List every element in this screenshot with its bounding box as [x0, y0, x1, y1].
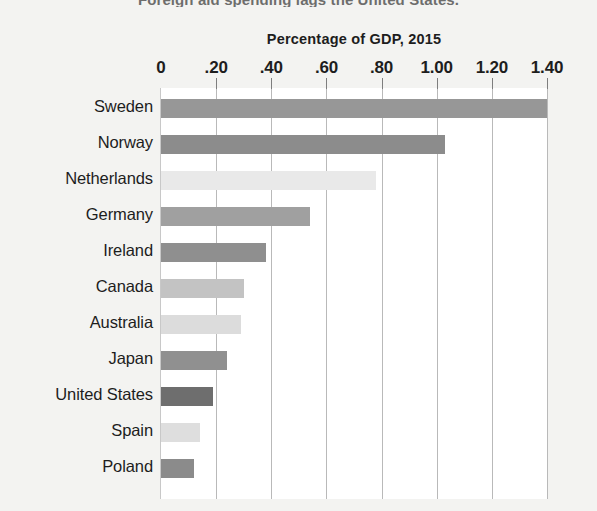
x-tick-label: .80	[370, 58, 393, 78]
x-tick-mark	[326, 78, 327, 89]
axis-title: Percentage of GDP, 2015	[161, 31, 547, 47]
x-tick-label: .60	[315, 58, 338, 78]
category-label: Norway	[0, 133, 153, 152]
figure-canvas: Foreign aid spending lags the United Sta…	[0, 0, 597, 511]
bar	[161, 99, 547, 118]
bar	[161, 171, 376, 190]
bar	[161, 351, 227, 370]
bar	[161, 387, 213, 406]
category-label: Germany	[0, 205, 153, 224]
category-label: United States	[0, 385, 153, 404]
gridline	[492, 88, 493, 499]
x-tick-mark	[271, 78, 272, 89]
x-axis-tick-labels: 0.20.40.60.801.001.201.40	[0, 58, 597, 82]
category-label: Ireland	[0, 241, 153, 260]
category-label: Australia	[0, 313, 153, 332]
category-label: Sweden	[0, 97, 153, 116]
x-tick-label: .20	[205, 58, 228, 78]
x-tick-mark	[216, 78, 217, 89]
bar	[161, 423, 200, 442]
bar	[161, 315, 241, 334]
x-tick-mark	[437, 78, 438, 89]
plot-area	[161, 88, 547, 499]
x-tick-mark	[382, 78, 383, 89]
bar	[161, 135, 445, 154]
bar	[161, 207, 310, 226]
x-tick-label: 0	[156, 58, 165, 78]
category-label: Japan	[0, 349, 153, 368]
bar	[161, 243, 266, 262]
x-tick-label: 1.00	[421, 58, 453, 78]
x-tick-label: .40	[260, 58, 283, 78]
x-tick-mark	[492, 78, 493, 89]
bar	[161, 459, 194, 478]
category-label: Canada	[0, 277, 153, 296]
x-tick-label: 1.20	[476, 58, 508, 78]
y-axis-category-labels: SwedenNorwayNetherlandsGermanyIrelandCan…	[0, 88, 153, 499]
x-tick-label: 1.40	[531, 58, 563, 78]
figure-headline: Foreign aid spending lags the United Sta…	[0, 0, 597, 7]
gridline	[547, 88, 548, 499]
category-label: Spain	[0, 421, 153, 440]
category-label: Netherlands	[0, 169, 153, 188]
category-label: Poland	[0, 457, 153, 476]
bar	[161, 279, 244, 298]
x-tick-mark	[547, 78, 548, 89]
